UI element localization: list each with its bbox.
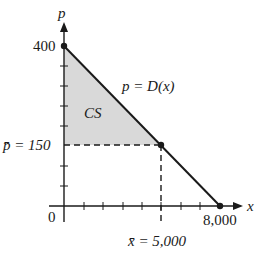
point-equilibrium [158, 142, 164, 148]
y-intercept-label: 400 [33, 38, 56, 54]
point-y-intercept [61, 43, 67, 49]
origin-label: 0 [48, 209, 56, 225]
cs-region-label: CS [84, 105, 102, 121]
x-bar-label: x̄ = 5,000 [127, 233, 187, 249]
y-axis-label: p [57, 5, 66, 21]
y-axis-arrow-icon [60, 22, 68, 32]
x-axis-label: x [246, 198, 254, 214]
x-intercept-label: 8,000 [203, 212, 237, 228]
point-x-intercept [217, 203, 223, 209]
consumer-surplus-chart: p x 0 400 8,000 p̄ = 150 x̄ = 5,000 p = … [0, 0, 263, 255]
x-axis-arrow-icon [233, 202, 243, 210]
p-bar-label: p̄ = 150 [2, 137, 51, 153]
curve-label: p = D(x) [121, 78, 175, 95]
